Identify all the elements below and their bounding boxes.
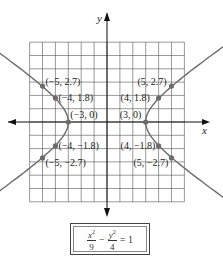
point-label: (3, 0) <box>120 109 142 121</box>
x-exponent: 2 <box>92 229 95 235</box>
minus-sign: − <box>99 234 105 245</box>
x-term-fraction: x2 9 <box>87 227 96 252</box>
point-marker <box>169 83 174 88</box>
y-axis-up-arrow-icon <box>104 12 110 21</box>
point-marker <box>40 155 45 160</box>
y-exponent: 2 <box>113 229 116 235</box>
y-axis-down-arrow-icon <box>104 208 110 217</box>
point-marker <box>169 155 174 160</box>
y-axis-label: y <box>96 12 102 24</box>
point-label: (−5, −2.7) <box>46 157 86 169</box>
point-marker <box>53 95 58 100</box>
point-marker <box>53 143 58 148</box>
equation-rhs: = 1 <box>120 234 133 245</box>
x-axis-left-arrow-icon <box>8 119 16 125</box>
point-label: (4, −1.8) <box>121 140 156 152</box>
point-label: (5, 2.7) <box>138 76 167 88</box>
y-term-fraction: y2 4 <box>108 227 117 252</box>
point-label: (−4, −1.8) <box>58 140 98 152</box>
x-term-denominator: 9 <box>89 241 94 252</box>
hyperbola-graph: x y (−5, 2.7)(−4, 1.8)(−3, 0)(−4, −1.8)(… <box>0 0 223 220</box>
point-marker <box>156 143 161 148</box>
point-label: (5, −2.7) <box>134 157 169 169</box>
point-marker <box>66 119 71 124</box>
equation-box: x2 9 − y2 4 = 1 <box>70 223 150 255</box>
point-label: (4, 1.8) <box>121 92 150 104</box>
point-marker <box>156 95 161 100</box>
point-marker <box>40 83 45 88</box>
point-label: (−5, 2.7) <box>46 76 81 88</box>
y-term-denominator: 4 <box>110 241 115 252</box>
x-axis <box>8 119 210 125</box>
x-axis-label: x <box>201 124 207 136</box>
point-label: (−3, 0) <box>70 109 97 121</box>
point-marker <box>143 119 148 124</box>
y-axis <box>104 12 110 217</box>
point-label: (−4, 1.8) <box>58 92 93 104</box>
